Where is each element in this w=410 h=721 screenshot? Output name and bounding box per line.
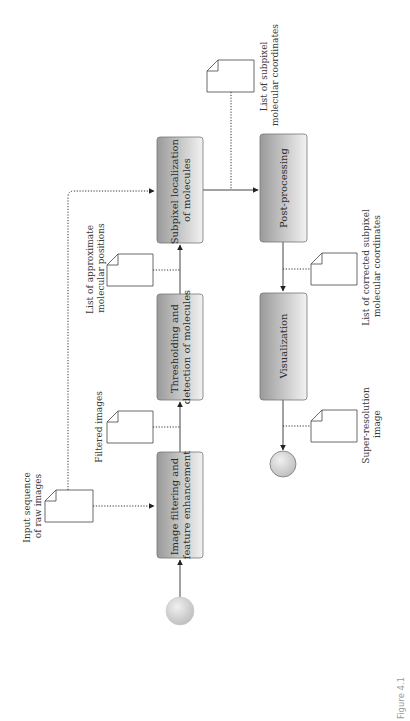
doc-icon-corrected: [311, 253, 357, 285]
doc-icon-raw: [45, 490, 93, 522]
flowchart: Image filtering and feature enhancement …: [0, 0, 410, 721]
process-box-threshold: Thresholding and detection of molecules: [157, 290, 203, 405]
doc-label-filtered: Filtered images: [94, 391, 104, 463]
svg-text:Post-processing: Post-processing: [278, 147, 289, 227]
figure-caption: Figure 4.1: [396, 677, 406, 719]
doc-icon-superres: [311, 410, 357, 442]
doc-icon-approx: [107, 254, 153, 286]
process-box-postproc: Post-processing: [260, 134, 307, 242]
process-box-visual: Visualization: [260, 293, 307, 400]
doc-icon-filtered: [107, 411, 153, 443]
doc-label-raw: Input sequence of raw images: [22, 469, 43, 542]
dotted-raw-to-subpixel: [68, 191, 154, 490]
threshold-label-1: Thresholding and: [169, 303, 180, 393]
doc-label-superres: Super-resolution image: [361, 384, 382, 463]
process-box-subpixel: Subpixel localization of molecules: [157, 136, 203, 245]
process-box-filter: Image filtering and feature enhancement: [157, 451, 203, 560]
doc-label-subpix: List of subpixel molecular coordinates: [259, 24, 280, 126]
filter-label-1: Image filtering and: [169, 457, 180, 555]
doc-label-corrected: List of corrected subpixel molecular coo…: [361, 206, 382, 326]
svg-text:Thresholding and detecti: Thresholding and detection of molecules: [169, 290, 192, 405]
visual-label: Visualization: [278, 313, 289, 380]
subpixel-label-2: of molecules: [181, 158, 192, 222]
start-terminal: [166, 597, 194, 625]
doc-label-approx: List of approximate molecular positions: [85, 222, 106, 314]
filter-label-2: feature enhancement: [181, 451, 192, 560]
postproc-label: Post-processing: [278, 147, 289, 227]
subpixel-label-1: Subpixel localization: [169, 138, 180, 244]
svg-text:Image filtering and feat: Image filtering and feature enhancement: [169, 451, 192, 560]
end-terminal: [270, 451, 296, 477]
doc-icon-subpix: [207, 60, 254, 92]
svg-text:Visualization: Visualization: [278, 313, 289, 380]
threshold-label-2: detection of molecules: [181, 290, 192, 405]
